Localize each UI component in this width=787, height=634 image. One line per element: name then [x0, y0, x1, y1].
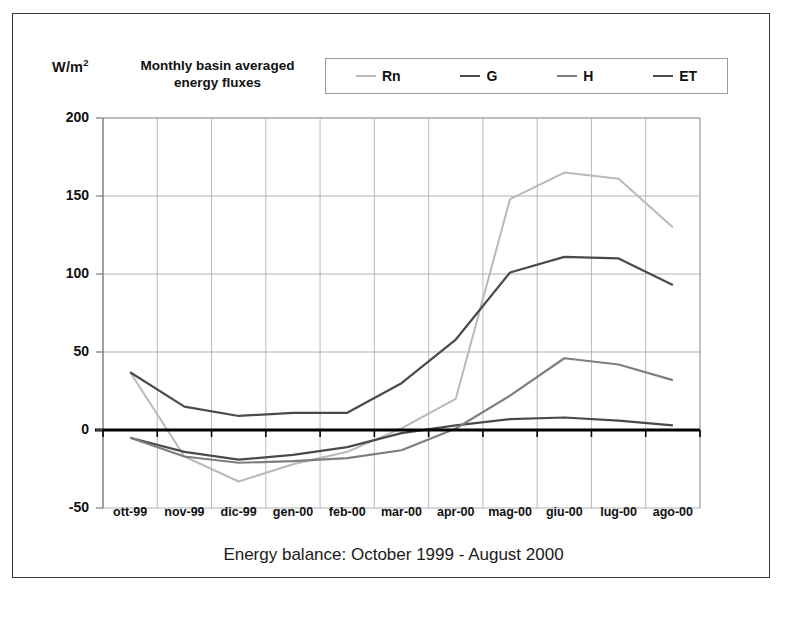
chart-canvas	[0, 0, 787, 634]
y-axis-tick-label: 100	[43, 265, 89, 281]
y-axis-tick-label: 0	[43, 421, 89, 437]
x-axis-caption: Energy balance: October 1999 - August 20…	[0, 545, 787, 565]
plot-area: 200150100500-50ott-99nov-99dic-99gen-00f…	[0, 0, 787, 634]
x-axis-tick-label: ago-00	[640, 505, 706, 519]
y-axis-tick-label: -50	[43, 499, 89, 515]
y-axis-tick-label: 200	[43, 109, 89, 125]
y-axis-tick-label: 150	[43, 187, 89, 203]
y-axis-tick-label: 50	[43, 343, 89, 359]
